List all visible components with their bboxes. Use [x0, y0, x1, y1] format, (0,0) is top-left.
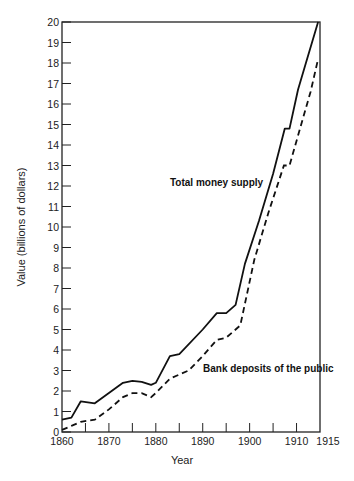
x-tick-label: 1910 — [285, 435, 309, 447]
x-tick-label: 1860 — [50, 435, 74, 447]
y-tick-label: 17 — [47, 78, 59, 90]
y-tick-label: 12 — [47, 180, 59, 192]
x-axis-ticks: 1860187018801890190019101915 — [50, 423, 340, 447]
annotation-total-money-supply: Total money supply — [170, 177, 264, 188]
x-tick-label: 1890 — [191, 435, 215, 447]
y-tick-label: 18 — [47, 57, 59, 69]
y-tick-label: 1 — [53, 406, 59, 418]
y-tick-label: 4 — [53, 344, 59, 356]
x-axis-title: Year — [171, 454, 194, 466]
y-tick-label: 3 — [53, 365, 59, 377]
y-tick-label: 2 — [53, 385, 59, 397]
x-tick-label: 1900 — [238, 435, 262, 447]
y-tick-label: 16 — [47, 98, 59, 110]
x-tick-label: 1870 — [97, 435, 121, 447]
x-tick-label: 1915 — [316, 435, 340, 447]
y-tick-label: 19 — [47, 37, 59, 49]
x-tick-label: 1880 — [144, 435, 168, 447]
y-tick-label: 9 — [53, 242, 59, 254]
y-tick-label: 20 — [47, 16, 59, 28]
bank-deposits-line — [62, 59, 318, 430]
y-tick-label: 5 — [53, 324, 59, 336]
y-tick-label: 13 — [47, 160, 59, 172]
total-money-supply-line — [62, 22, 318, 420]
y-axis-title: Value (billions of dollars) — [15, 167, 27, 286]
y-tick-label: 14 — [47, 139, 59, 151]
y-tick-label: 10 — [47, 221, 59, 233]
y-tick-label: 6 — [53, 303, 59, 315]
y-tick-label: 7 — [53, 283, 59, 295]
annotation-bank-deposits: Bank deposits of the public — [203, 363, 334, 374]
money-supply-chart: 01234567891011121314151617181920 1860187… — [0, 0, 354, 481]
y-tick-label: 15 — [47, 119, 59, 131]
y-tick-label: 11 — [48, 201, 59, 213]
y-axis-ticks: 01234567891011121314151617181920 — [47, 16, 71, 438]
y-tick-label: 8 — [53, 262, 59, 274]
